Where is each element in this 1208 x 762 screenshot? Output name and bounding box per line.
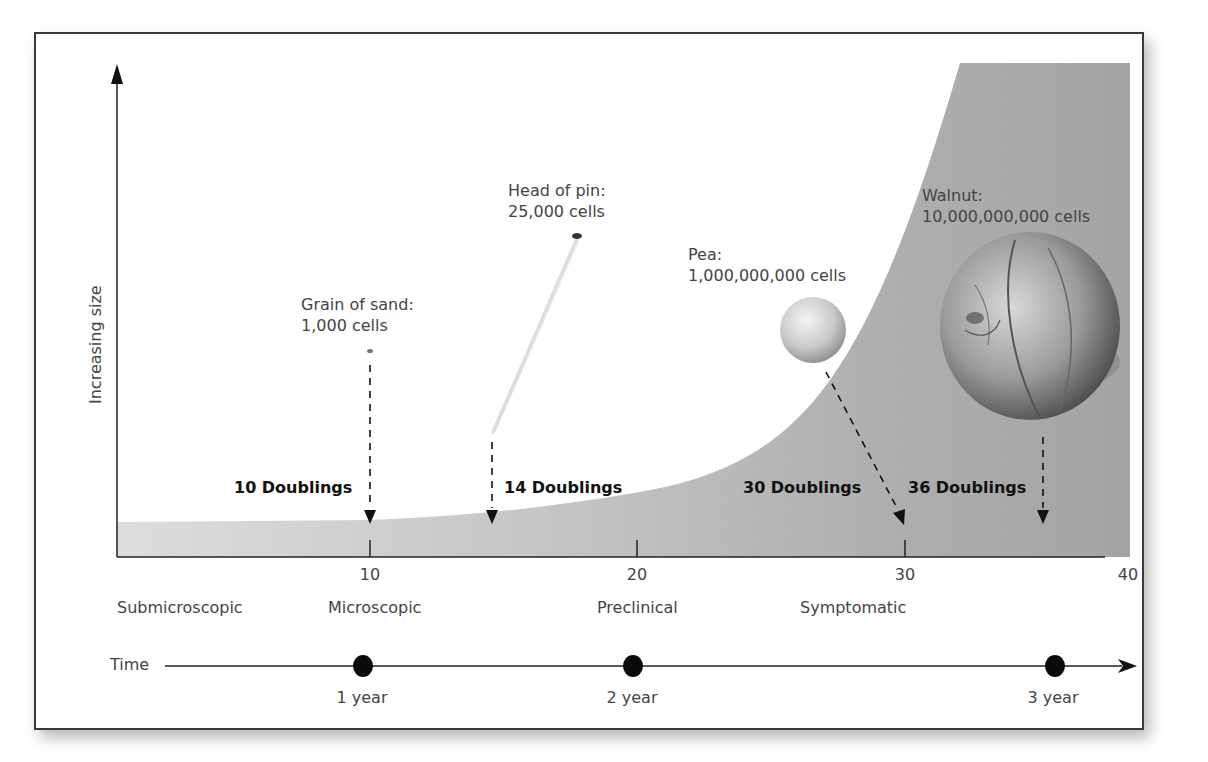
walnut-icon	[940, 232, 1120, 420]
pea-label: Pea: 1,000,000,000 cells	[688, 244, 846, 286]
growth-curve-plot	[0, 0, 1208, 762]
stage-symptomatic: Symptomatic	[800, 598, 906, 617]
doublings-label-36: 36 Doublings	[908, 478, 1026, 497]
timeline-marker-1-year: 1 year	[337, 688, 388, 707]
pin-label: Head of pin: 25,000 cells	[508, 180, 606, 222]
x-tick-20: 20	[627, 565, 647, 584]
walnut-label: Walnut: 10,000,000,000 cells	[922, 185, 1090, 227]
y-axis	[111, 64, 123, 557]
y-axis-label: Increasing size	[86, 285, 105, 404]
x-tick-40: 40	[1118, 565, 1138, 584]
stage-submicroscopic: Submicroscopic	[117, 598, 243, 617]
stage-microscopic: Microscopic	[328, 598, 421, 617]
arrow-pin	[486, 442, 498, 524]
x-tick-30: 30	[895, 565, 915, 584]
arrow-grain-of-sand	[364, 365, 376, 524]
pea-icon	[780, 297, 846, 363]
timeline-marker-3-year: 3 year	[1028, 688, 1079, 707]
pin-icon	[493, 233, 582, 432]
doublings-label-14: 14 Doublings	[504, 478, 622, 497]
timeline-marker-2-year: 2 year	[607, 688, 658, 707]
grain-of-sand-icon	[367, 349, 373, 353]
grain-of-sand-label: Grain of sand: 1,000 cells	[301, 294, 414, 336]
timeline	[165, 655, 1137, 677]
x-tick-10: 10	[360, 565, 380, 584]
timeline-label: Time	[110, 655, 149, 674]
stage-preclinical: Preclinical	[597, 598, 678, 617]
doublings-label-30: 30 Doublings	[743, 478, 861, 497]
doublings-label-10: 10 Doublings	[234, 478, 352, 497]
